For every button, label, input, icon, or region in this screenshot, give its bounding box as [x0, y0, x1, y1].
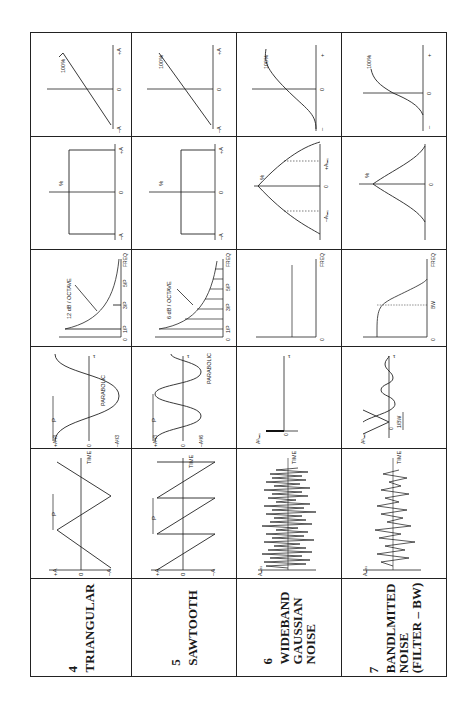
axis-label: A²ᵣₘₛ: [255, 433, 261, 444]
sawtooth-autocorrelation-plot: P PARABOLIC +A²/3 0 –A²/6 τ: [131, 346, 236, 448]
signal-name: SAWTOOTH: [186, 590, 199, 666]
tick-label: +: [319, 53, 325, 57]
tick-label: 3/P: [122, 301, 128, 309]
sawtooth-spectrum-plot: 6 dB / OCTAVE 0 1/P 3/P 5/P FREQ: [131, 249, 236, 346]
axis-label: A²ᵣₘₛ: [360, 433, 366, 444]
signal-label-triangular: 4TRIANGULAR: [31, 578, 131, 678]
axis-label: –A: [106, 569, 112, 576]
tick-label: 0: [218, 191, 224, 194]
tick-label: 0: [430, 338, 436, 341]
signal-number: 7: [367, 583, 380, 674]
tick-label: 0: [225, 338, 231, 341]
tick-label: –: [319, 127, 325, 131]
tick-label: –A: [218, 233, 224, 240]
signal-label-wideband-noise: 6WIDEBANDGAUSSIANNOISE: [236, 578, 341, 678]
bandlimited-noise-cdf-plot: 100% – 0 +: [341, 33, 448, 136]
signal-name: BANDLMITED: [384, 583, 397, 674]
tick-label: 0: [116, 88, 122, 91]
signal-label-sawtooth: 5SAWTOOTH: [131, 578, 236, 678]
tick-label: –Aᵣₘₛ: [323, 210, 329, 222]
signal-characteristics-table: 4TRIANGULAR 5SAWTOOTH 6WIDEBANDGAUSSIANN…: [30, 32, 447, 677]
tick-label: –A: [216, 126, 222, 133]
axis-label: +A: [154, 568, 160, 576]
bandwidth-marker: BW: [430, 301, 436, 309]
axis-label: TIME: [291, 451, 297, 464]
axis-label: +A²/3: [152, 435, 158, 447]
wideband-noise-waveform-plot: Aₘₐₓ TIME: [236, 448, 341, 578]
signal-number: 5: [169, 590, 182, 666]
axis-label: 100%: [263, 55, 269, 69]
wideband-noise-spectrum-plot: 0 FREQ: [236, 249, 341, 346]
axis-label: 0: [86, 444, 92, 447]
tick-label: –A: [116, 126, 122, 133]
wideband-noise-autocorrelation-plot: A²ᵣₘₛ 0 τ: [236, 346, 341, 448]
tick-label: +A: [118, 147, 124, 154]
tick-label: –: [426, 125, 432, 129]
axis-label: –A²/3: [114, 435, 120, 447]
annotation: PARABOLIC: [100, 375, 106, 406]
axis-label: 100%: [60, 59, 66, 73]
wideband-noise-pdf-plot: % –Aᵣₘₛ 0 +Aᵣₘₛ: [236, 136, 341, 249]
tick-label: +A: [216, 48, 222, 55]
axis-label: –A: [210, 569, 216, 576]
sawtooth-pdf-plot: % –A 0 +A: [131, 136, 236, 249]
tick-label: 0: [319, 338, 325, 341]
signal-name: GAUSSIAN: [291, 592, 304, 665]
slope-annotation: 6 dB / OCTAVE: [166, 281, 172, 319]
axis-label: FREQ: [225, 253, 231, 267]
tick-label: +Aᵣₘₛ: [323, 158, 329, 170]
axis-label: 0: [78, 572, 84, 576]
period-label: P: [151, 516, 157, 520]
tick-label: 0: [118, 191, 124, 194]
bandlimited-noise-pdf-plot: % 0: [341, 136, 448, 249]
signal-name: (FILTER – BW): [410, 583, 423, 674]
axis-label: FREQ: [122, 253, 128, 267]
tick-label: 3/P: [225, 303, 231, 311]
tick-label: 0: [426, 92, 432, 95]
signal-name: NOISE: [304, 592, 317, 665]
axis-label: Aₘₐₓ: [257, 566, 263, 576]
axis-label: 0: [180, 444, 186, 447]
axis-label: 100%: [158, 55, 164, 69]
axis-label: TIME: [396, 451, 402, 464]
period-label: P: [151, 418, 157, 422]
axis-label: %: [158, 180, 164, 186]
axis-label: %: [364, 172, 370, 178]
axis-label: τ: [288, 353, 291, 359]
axis-label: τ: [187, 353, 190, 359]
tick-label: +: [426, 53, 432, 57]
tick-label: 5/P: [225, 283, 231, 291]
sawtooth-cdf-plot: 100% –A 0 +A: [131, 33, 236, 136]
signal-name: NOISE: [397, 583, 410, 674]
period-label: P: [51, 418, 57, 422]
triangular-spectrum-plot: 12 dB / OCTAVE 0 1/P 3/P 5/P FREQ: [31, 249, 131, 346]
tick-label: –A: [118, 233, 124, 240]
bandwidth-marker: 1/BW: [396, 415, 402, 428]
axis-label: FREQ: [430, 253, 436, 267]
axis-label: Aₘₐₓ: [362, 566, 368, 576]
tick-label: 1/P: [225, 325, 231, 333]
axis-label: FREQ: [319, 253, 325, 267]
signal-name: WIDEBAND: [278, 592, 291, 665]
axis-label: TIME: [188, 455, 194, 468]
bandlimited-noise-spectrum-plot: 0 BW FREQ: [341, 249, 448, 346]
annotation: PARABOLIC: [206, 353, 212, 384]
tick-label: 5/P: [122, 279, 128, 287]
axis-label: 0: [283, 433, 289, 436]
triangular-waveform-plot: +A 0 –A P TIME: [31, 448, 131, 578]
tick-label: 0: [319, 88, 325, 91]
axis-label: 0: [388, 427, 394, 430]
signal-label-bandlimited-noise: 7BANDLMITEDNOISE(FILTER – BW): [341, 578, 448, 678]
tick-label: 1/P: [122, 325, 128, 333]
triangular-autocorrelation-plot: P PARABOLIC +A²/3 0 –A²/3 τ: [31, 346, 131, 448]
axis-label: +A²/3: [52, 435, 58, 447]
sawtooth-waveform-plot: P +A 0 –A TIME: [131, 448, 236, 578]
axis-label: 0: [180, 572, 186, 576]
tick-label: +A: [218, 147, 224, 154]
axis-label: TIME: [86, 451, 92, 464]
axis-label: τ: [93, 353, 96, 359]
wideband-noise-cdf-plot: 100% – 0 +: [236, 33, 341, 136]
axis-label: %: [58, 180, 64, 186]
tick-label: 0: [216, 88, 222, 91]
bandlimited-noise-autocorrelation-plot: 1/BW A²ᵣₘₛ 0 τ: [341, 346, 448, 448]
